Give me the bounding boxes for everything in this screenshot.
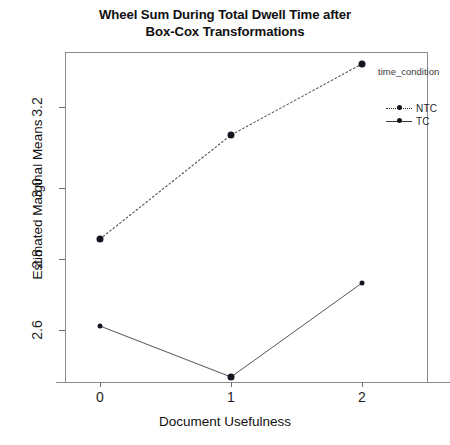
tc-point-0	[98, 324, 103, 329]
x-tick-label-0: 0	[85, 389, 115, 405]
legend-title: time_condition	[378, 66, 439, 77]
y-axis-title: Estimated Marginal Means	[30, 85, 45, 315]
legend-key-tc-icon	[386, 116, 412, 127]
x-axis-line	[56, 382, 450, 383]
tc-point-1	[228, 374, 235, 381]
plot-area	[65, 52, 428, 382]
tc-line	[100, 283, 362, 377]
chart-title: Wheel Sum During Total Dwell Time after …	[0, 6, 450, 40]
x-tick-label-2: 2	[347, 389, 377, 405]
chart-title-line-2: Box-Cox Transformations	[0, 23, 450, 40]
ntc-point-2	[359, 61, 366, 68]
x-tick-0	[100, 382, 101, 387]
legend-item-tc[interactable]: TC	[386, 115, 430, 128]
chart-title-line-1: Wheel Sum During Total Dwell Time after	[99, 7, 351, 22]
series-lines	[65, 52, 428, 382]
legend-key-ntc-icon	[386, 103, 412, 114]
y-tick-label-2-6: 2.6	[29, 314, 45, 346]
x-tick-2	[362, 382, 363, 387]
x-tick-label-1: 1	[216, 389, 246, 405]
ntc-point-0	[97, 236, 104, 243]
legend-label-ntc: NTC	[416, 103, 437, 114]
x-tick-1	[231, 382, 232, 387]
x-axis-title: Document Usefulness	[55, 414, 395, 429]
ntc-line	[100, 64, 362, 239]
legend-item-ntc[interactable]: NTC	[386, 102, 437, 115]
legend-label-tc: TC	[416, 116, 430, 127]
chart-figure: Wheel Sum During Total Dwell Time after …	[0, 0, 450, 445]
tc-point-2	[360, 281, 365, 286]
ntc-point-1	[228, 132, 235, 139]
